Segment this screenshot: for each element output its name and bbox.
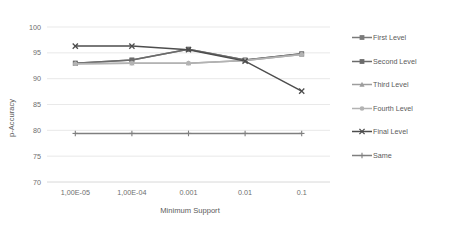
legend-key-fourth-level (352, 104, 372, 113)
legend-key-first-level (352, 33, 372, 42)
data-point-marker (360, 106, 365, 111)
x-axis-title: Minimum Support (160, 206, 220, 215)
legend-label-first-level: First Level (373, 34, 406, 41)
data-point-marker (360, 59, 365, 64)
legend-label-second-level: Second Level (373, 58, 417, 65)
y-axis-tick-labels: 100959085807570 (29, 23, 41, 187)
legend-label-fourth-level: Fourth Level (373, 105, 413, 112)
legend-key-final-level (352, 127, 372, 136)
y-tick-label: 90 (33, 74, 41, 83)
data-point-marker (242, 131, 248, 137)
legend-item-third-level: Third Level (352, 73, 447, 97)
data-point-marker (299, 88, 304, 93)
line-chart: 100959085807570 1,00E-051,00E-040.0010.0… (0, 0, 449, 250)
y-tick-label: 95 (33, 48, 41, 57)
y-tick-label: 80 (33, 126, 41, 135)
data-series-group (73, 44, 305, 137)
series-fourth-level (73, 52, 304, 66)
data-point-marker (186, 61, 191, 66)
legend-label-same: Same (373, 152, 392, 159)
x-tick-label: 1,00E-04 (117, 188, 146, 197)
series-same (73, 131, 305, 137)
y-tick-label: 100 (29, 23, 41, 32)
legend-item-same: Same (352, 144, 447, 168)
y-tick-label: 75 (33, 152, 41, 161)
legend-item-second-level: Second Level (352, 50, 447, 74)
legend-item-first-level: First Level (352, 26, 447, 50)
y-axis-title: p-Accuracy (7, 99, 16, 137)
x-tick-label: 0.01 (238, 188, 252, 197)
data-point-marker (299, 52, 304, 57)
x-tick-label: 1,00E-05 (61, 188, 90, 197)
y-tick-label: 70 (33, 178, 41, 187)
legend-label-final-level: Final Level (373, 128, 408, 135)
data-point-marker (73, 61, 78, 66)
chart-legend: First Level Second Level Third Level Fou… (352, 26, 447, 167)
legend-key-third-level (352, 80, 372, 89)
legend-label-third-level: Third Level (373, 81, 409, 88)
data-point-marker (130, 61, 135, 66)
legend-item-final-level: Final Level (352, 120, 447, 144)
y-tick-label: 85 (33, 100, 41, 109)
data-point-marker (129, 131, 135, 137)
data-point-marker (299, 131, 305, 137)
x-axis-tick-labels: 1,00E-051,00E-040.0010.010.1 (61, 188, 307, 197)
data-point-marker (359, 152, 365, 158)
data-point-marker (360, 35, 365, 40)
data-point-marker (186, 131, 192, 137)
x-tick-label: 0.001 (180, 188, 198, 197)
legend-item-fourth-level: Fourth Level (352, 97, 447, 121)
legend-key-second-level (352, 57, 372, 66)
data-point-marker (73, 131, 79, 137)
legend-key-same (352, 151, 372, 160)
x-tick-label: 0.1 (297, 188, 307, 197)
